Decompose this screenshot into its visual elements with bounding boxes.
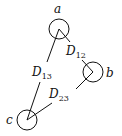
edge-a-c: [47, 29, 59, 62]
edge-a-c-lower: [27, 82, 40, 120]
node-a-label: a: [54, 2, 61, 16]
edge-label-d12: D12: [65, 44, 86, 60]
edge-label-d23: D23: [48, 87, 69, 103]
node-c-label: c: [6, 113, 13, 127]
node-b-label: b: [106, 66, 114, 80]
edge-label-d13: D13: [31, 65, 52, 81]
distance-diagram: a b c D12 D13 D23: [0, 0, 122, 136]
edge-b-c-lower: [27, 103, 52, 120]
edge-b-c: [76, 72, 93, 89]
